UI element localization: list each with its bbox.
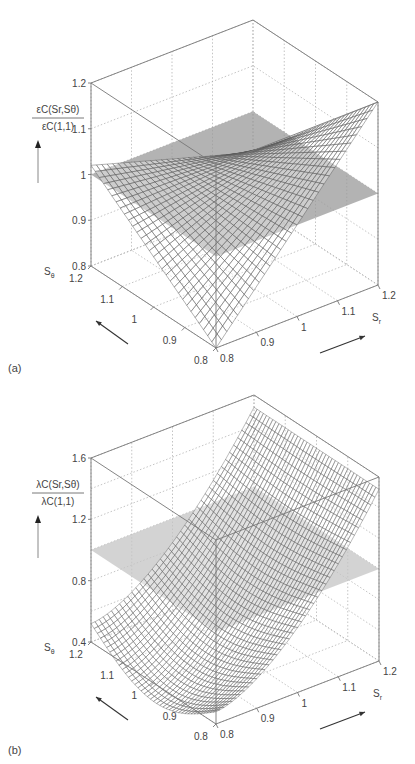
sr-direction-arrow-head [359, 336, 365, 340]
stheta-tick-label: 1.2 [69, 649, 83, 660]
z-direction-arrow-head [35, 515, 41, 523]
sr-direction-arrow-head [359, 712, 365, 716]
stheta-direction-arrow [96, 321, 128, 344]
z-tick-label: 0.4 [72, 637, 86, 648]
z-tick-label: 1.2 [72, 514, 86, 525]
z-direction-arrow-head [35, 140, 41, 148]
stheta-axis-label: Sθ [44, 266, 55, 279]
sr-axis-label: Sr [373, 688, 383, 701]
panel-label-a: (a) [8, 362, 21, 374]
tick-mark [88, 642, 91, 645]
tick-mark [338, 677, 340, 681]
stheta-tick-label: 0.8 [194, 731, 208, 742]
sr-tick-label: 1 [302, 698, 308, 709]
stheta-tick-label: 1 [132, 690, 138, 701]
stheta-tick-label: 1.1 [100, 294, 114, 305]
z-tick-label: 0.9 [72, 215, 86, 226]
surface-plot-a: 0.80.911.11.20.80.911.11.20.80.911.11.2S… [0, 0, 415, 382]
sr-axis-label: Sr [372, 312, 382, 325]
sr-tick-label: 0.9 [261, 337, 275, 348]
stheta-direction-arrow [96, 697, 128, 720]
sr-tick-label: 1.2 [383, 666, 397, 677]
stheta-tick-label: 1 [132, 314, 138, 325]
tick-mark [119, 287, 122, 290]
z-axis-label-numerator: λC(Sr,Sθ) [36, 479, 79, 490]
tick-mark [216, 724, 218, 728]
sr-tick-label: 1.2 [382, 290, 396, 301]
tick-mark [182, 328, 185, 331]
stheta-tick-label: 0.8 [194, 355, 208, 366]
z-axis-label-numerator: εC(Sr,Sθ) [37, 104, 80, 115]
sr-tick-label: 1.1 [342, 682, 356, 693]
tick-mark [298, 693, 300, 697]
stheta-tick-label: 1.2 [69, 273, 83, 284]
z-tick-label: 0.8 [72, 261, 86, 272]
stheta-axis-label: Sθ [44, 642, 55, 655]
stheta-direction-arrow-head [96, 697, 102, 702]
sr-tick-label: 1.1 [342, 306, 356, 317]
tick-mark [297, 317, 299, 321]
tick-mark [338, 301, 340, 305]
tick-mark [379, 661, 381, 665]
sr-tick-label: 0.9 [261, 713, 275, 724]
chart-panel-a: 0.80.911.11.20.80.911.11.20.80.911.11.2S… [0, 0, 415, 382]
stheta-tick-label: 0.9 [163, 335, 177, 346]
tick-mark [257, 332, 259, 336]
tick-mark [213, 348, 216, 351]
stheta-tick-label: 1.1 [100, 670, 114, 681]
tick-mark [257, 708, 259, 712]
box-edge [91, 20, 253, 83]
tick-mark [378, 285, 380, 289]
z-tick-label: 0.8 [72, 576, 86, 587]
z-axis-label-denominator: εC(1,1) [42, 121, 74, 132]
panel-label-b: (b) [8, 744, 21, 756]
stheta-tick-label: 0.9 [163, 711, 177, 722]
z-tick-label: 1.2 [72, 78, 86, 89]
tick-mark [216, 348, 218, 352]
tick-mark [88, 266, 91, 269]
sr-tick-label: 1 [301, 322, 307, 333]
sr-direction-arrow [320, 712, 365, 729]
z-axis-label-denominator: λC(1,1) [42, 496, 75, 507]
stheta-direction-arrow-head [96, 321, 102, 326]
z-tick-label: 1 [80, 170, 86, 181]
sr-tick-label: 0.8 [220, 353, 234, 364]
tick-mark [213, 724, 216, 727]
z-tick-label: 1.6 [72, 453, 86, 464]
sr-direction-arrow [320, 336, 365, 353]
chart-panel-b: 0.80.911.11.20.80.911.11.20.40.81.21.6Sr… [0, 382, 415, 764]
tick-mark [151, 307, 154, 310]
sr-tick-label: 0.8 [220, 729, 234, 740]
z-tick-label: 1.1 [72, 124, 86, 135]
surface-plot-b: 0.80.911.11.20.80.911.11.20.40.81.21.6Sr… [0, 382, 415, 764]
